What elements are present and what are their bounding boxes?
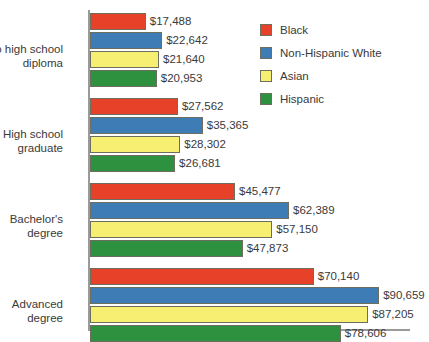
bar-value-label: $21,640 — [163, 52, 205, 67]
legend-swatch-icon — [260, 93, 272, 105]
legend-item-asian[interactable]: Asian — [260, 68, 428, 88]
bar-value-label: $57,150 — [276, 222, 318, 237]
bar-row: $90,659 — [90, 287, 410, 304]
bar-value-label: $90,659 — [383, 288, 425, 303]
legend-item-hispanic[interactable]: Hispanic — [260, 91, 428, 111]
bar-hispanic[interactable] — [90, 70, 157, 87]
bar-chart: $17,488 $22,642 $21,640 $20,953 $27,562 — [0, 0, 429, 342]
category-label-high-school-graduate: High school graduate — [0, 127, 63, 155]
bar-non-hispanic-white[interactable] — [90, 32, 162, 49]
bar-non-hispanic-white[interactable] — [90, 287, 379, 304]
bar-value-label: $22,642 — [166, 33, 208, 48]
legend-label: Non-Hispanic White — [280, 45, 382, 61]
legend-label: Hispanic — [280, 91, 324, 107]
legend-swatch-icon — [260, 47, 272, 59]
bar-row: $45,477 — [90, 183, 410, 200]
bar-row: $87,205 — [90, 306, 410, 323]
bar-row: $57,150 — [90, 221, 410, 238]
category-label-advanced-degree: Advanced degree — [0, 297, 63, 325]
legend-swatch-icon — [260, 24, 272, 36]
bar-hispanic[interactable] — [90, 325, 341, 342]
bar-value-label: $45,477 — [239, 184, 281, 199]
bar-asian[interactable] — [90, 136, 180, 153]
category-label-no-high-school-diploma: No high school diploma — [0, 42, 63, 70]
bar-value-label: $28,302 — [184, 137, 226, 152]
bar-value-label: $70,140 — [318, 269, 360, 284]
legend-item-black[interactable]: Black — [260, 22, 428, 42]
bar-value-label: $17,488 — [150, 14, 192, 29]
bar-black[interactable] — [90, 183, 235, 200]
bar-value-label: $35,365 — [207, 118, 249, 133]
bar-row: $47,873 — [90, 240, 410, 257]
bar-non-hispanic-white[interactable] — [90, 202, 289, 219]
legend-label: Black — [280, 22, 308, 38]
bar-row: $62,389 — [90, 202, 410, 219]
legend-item-non-hispanic-white[interactable]: Non-Hispanic White — [260, 45, 428, 65]
bar-value-label: $78,606 — [345, 326, 387, 341]
bar-asian[interactable] — [90, 306, 368, 323]
bar-value-label: $62,389 — [293, 203, 335, 218]
bar-asian[interactable] — [90, 51, 159, 68]
category-label-bachelors-degree: Bachelor's degree — [0, 212, 63, 240]
bar-value-label: $87,205 — [372, 307, 414, 322]
bar-hispanic[interactable] — [90, 240, 243, 257]
bar-black[interactable] — [90, 268, 314, 285]
legend-swatch-icon — [260, 70, 272, 82]
bar-group: $45,477 $62,389 $57,150 $47,873 — [90, 183, 410, 259]
bar-black[interactable] — [90, 98, 178, 115]
bar-row: $26,681 — [90, 155, 410, 172]
bar-row: $28,302 — [90, 136, 410, 153]
bar-value-label: $47,873 — [247, 241, 289, 256]
bar-value-label: $20,953 — [161, 71, 203, 86]
bar-value-label: $27,562 — [182, 99, 224, 114]
bar-hispanic[interactable] — [90, 155, 175, 172]
bar-row: $70,140 — [90, 268, 410, 285]
bar-value-label: $26,681 — [179, 156, 221, 171]
legend-label: Asian — [280, 68, 309, 84]
bar-row: $78,606 — [90, 325, 410, 342]
bar-non-hispanic-white[interactable] — [90, 117, 203, 134]
legend: Black Non-Hispanic White Asian Hispanic — [260, 22, 428, 114]
bar-asian[interactable] — [90, 221, 272, 238]
bar-row: $35,365 — [90, 117, 410, 134]
bar-group: $70,140 $90,659 $87,205 $78,606 — [90, 268, 410, 342]
bar-black[interactable] — [90, 13, 146, 30]
